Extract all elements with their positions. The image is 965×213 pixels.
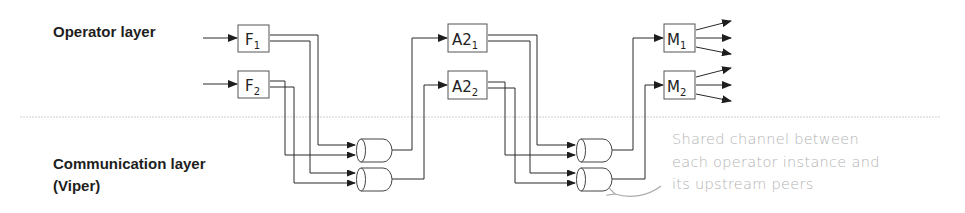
channel-cylinder-2: [357, 168, 393, 191]
edge-ch4-to-m2: [612, 85, 663, 179]
annotation-line-2: each operator instance and: [672, 151, 880, 174]
annotation-line-1: Shared channel between: [672, 128, 880, 151]
channel-cylinder-1: [357, 139, 393, 162]
edge-a2-1-to-ch4: [488, 41, 575, 173]
edge-a2-2-to-ch4: [488, 88, 575, 183]
edge-ch3-to-m1: [612, 38, 663, 150]
shared-channel-annotation: Shared channel between each operator ins…: [672, 128, 880, 196]
edge-f1-to-ch1: [270, 35, 355, 145]
output-arrow-m1-c: [696, 47, 731, 54]
edge-a2-1-to-ch3: [488, 35, 575, 145]
edge-f2-to-ch2: [270, 87, 355, 183]
output-arrow-m1-a: [696, 21, 731, 30]
output-arrow-m2-a: [696, 68, 731, 77]
channel-cylinder-4: [577, 168, 613, 191]
output-arrow-m2-c: [696, 94, 731, 101]
edge-a2-2-to-ch3: [488, 82, 575, 155]
edge-f1-to-ch2: [270, 41, 355, 173]
edge-ch1-to-a2-1: [392, 38, 447, 150]
annotation-curved-arrow-icon: [615, 186, 661, 196]
edge-f2-to-ch1: [270, 81, 355, 155]
annotation-line-3: its upstream peers: [672, 173, 880, 196]
channel-cylinder-3: [577, 139, 613, 162]
edge-ch2-to-a2-2: [392, 85, 447, 179]
